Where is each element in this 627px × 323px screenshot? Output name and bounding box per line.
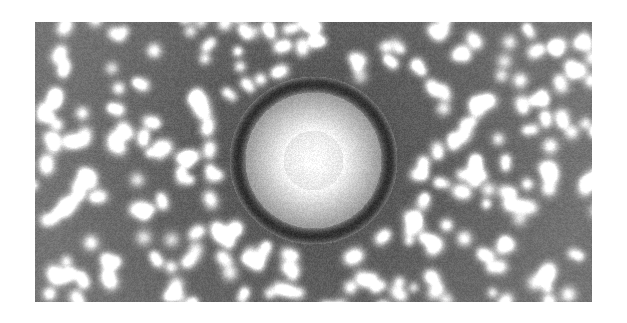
micrograph-frame <box>35 22 592 302</box>
page-root <box>0 0 627 323</box>
micrograph-image <box>35 22 592 302</box>
